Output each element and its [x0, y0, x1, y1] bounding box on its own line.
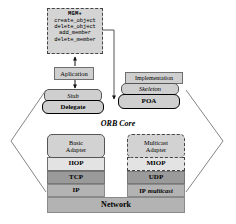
- basic-adapter-line2: Adapter: [66, 146, 86, 153]
- orb-core-label: ORB Core: [0, 119, 236, 128]
- diagram-canvas: MGM+ create_object delete_object add_mem…: [0, 0, 236, 224]
- mgm-operation-delete-member: delete_member: [54, 37, 96, 43]
- network-box: Network: [47, 197, 185, 213]
- iiop-box: IIOP: [47, 157, 105, 171]
- ip-multicast-suffix: multicast: [148, 187, 173, 194]
- basic-adapter-box: Basic Adapter: [47, 134, 105, 158]
- mgm-interface-box: MGM+ create_object delete_object add_mem…: [47, 8, 103, 54]
- application-box: Aplication: [54, 67, 94, 80]
- miop-box: MIOP: [127, 157, 185, 171]
- multicast-adapter-box: Multicast Adapter: [127, 134, 185, 158]
- arrow-mgm-to-poa: [103, 30, 114, 99]
- multicast-adapter-line2: Adapter: [146, 146, 166, 153]
- ip-multicast-prefix: IP: [139, 187, 146, 194]
- delegate-box: Delegate: [42, 100, 104, 114]
- basic-adapter-line1: Basic: [69, 139, 83, 146]
- multicast-adapter-line1: Multicast: [144, 139, 168, 146]
- ip-multicast-box: IPmulticast: [127, 184, 185, 197]
- tcp-box: TCP: [47, 171, 105, 184]
- orb-chevron-left: [11, 90, 46, 192]
- poa-box: POA: [118, 94, 180, 109]
- udp-box: UDP: [127, 171, 185, 184]
- ip-box: IP: [47, 184, 105, 197]
- orb-chevron-right: [186, 90, 223, 192]
